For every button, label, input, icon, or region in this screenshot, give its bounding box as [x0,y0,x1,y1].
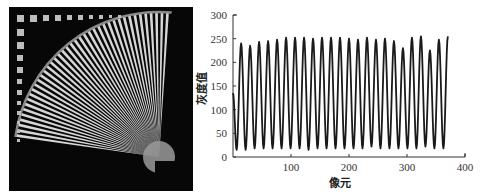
gray-value-line [233,36,448,150]
y-axis-title: 灰度值 [195,72,209,105]
fan-wedges [15,12,168,157]
y-tick-label: 100 [211,104,228,116]
y-tick-label: 200 [211,56,228,68]
radial-fan-graphic [9,7,193,191]
y-tick-label: 150 [211,80,228,92]
y-tick-label: 0 [222,151,228,163]
y-tick-label: 300 [211,9,228,21]
x-axis-title: 像元 [329,176,351,190]
y-tick-label: 50 [216,127,228,139]
x-tick-label: 200 [341,161,358,173]
chart-axes [233,15,465,157]
y-axis-ticks: 050100150200250300 [211,9,237,163]
x-tick-label: 400 [457,161,474,173]
y-tick-label: 250 [211,33,228,45]
x-tick-label: 100 [283,161,300,173]
x-tick-label: 300 [399,161,416,173]
radial-target-image [9,7,193,191]
gray-value-chart: 050100150200250300 100200300400 灰度值 像元 [190,0,480,196]
